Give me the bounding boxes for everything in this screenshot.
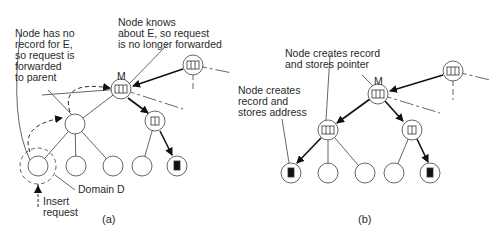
label-insert-request: Insert request (43, 196, 78, 218)
label-domain-d: Domain D (78, 184, 125, 195)
label-node-knows: Node knows about E, so request is no lon… (118, 17, 222, 50)
label-m-a: M (117, 71, 126, 82)
label-stores-address: Node creates record and stores address (238, 85, 307, 118)
label-stores-pointer: Node creates record and stores pointer (285, 48, 380, 70)
label-no-record: Node has no record for E, so request is … (15, 28, 75, 83)
caption-b: (b) (358, 213, 371, 225)
label-m-b: M (374, 76, 383, 87)
caption-a: (a) (102, 213, 115, 225)
panel-b-nodes (281, 61, 463, 183)
